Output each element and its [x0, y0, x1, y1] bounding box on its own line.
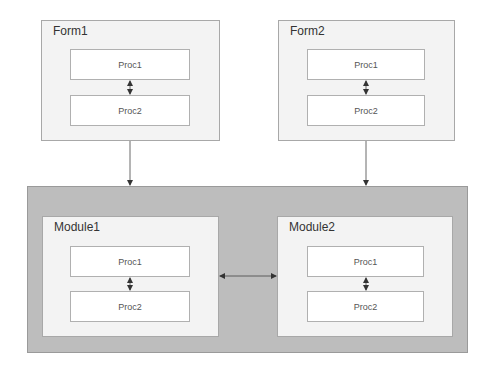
- connector-arrows: [0, 0, 490, 369]
